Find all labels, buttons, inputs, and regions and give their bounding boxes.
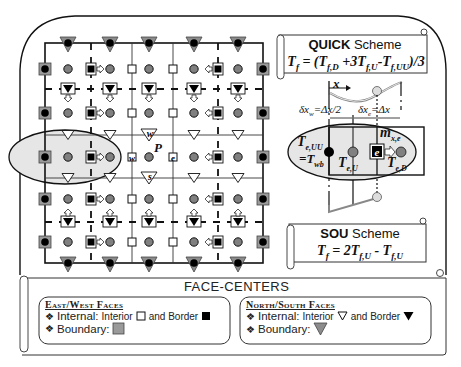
cell-center-circle [234, 238, 242, 246]
label-P: P [154, 140, 162, 156]
T-e-U-sub: e,U [347, 164, 358, 173]
flow-arrow-icon [64, 95, 72, 102]
formula-subscript: f,D [327, 62, 339, 72]
boundary-node [41, 65, 49, 73]
bullet-icon: ❖ [45, 311, 54, 322]
cell-center-circle [234, 195, 242, 203]
T-e-U-label: Te,U [338, 155, 358, 173]
boundary-node [259, 238, 267, 246]
T-wb-symbol: =T [299, 151, 314, 166]
ew-legend: East/West Faces ❖ Internal: Interior and… [45, 299, 211, 335]
formula-term: )/3 [409, 54, 425, 69]
ns-internal-line: ❖ Internal: Interior and Border [246, 310, 414, 322]
boundary-node [64, 259, 72, 267]
border-ew-face [215, 154, 222, 161]
boundary-node [64, 39, 72, 47]
sou-scroll-rod [287, 225, 294, 269]
interior-ew-face [169, 109, 177, 117]
flow-arrow-icon [97, 195, 104, 203]
dx-e-label: δxe=Δx [358, 103, 390, 118]
cell-center-circle [145, 238, 153, 246]
cell-center-circle [145, 153, 153, 161]
boundary-node [259, 109, 267, 117]
sou-title-rest: Scheme [348, 226, 399, 241]
sou-scheme-title: SOU Scheme [296, 226, 424, 241]
profile-curve-highlight [330, 82, 402, 101]
T-e-U-symbol: T [338, 155, 347, 170]
lower-marker [373, 193, 382, 202]
border-square-icon [201, 311, 211, 321]
interior-ew-face [169, 195, 177, 203]
quick-scheme-title: QUICK Scheme [286, 37, 424, 52]
m-x-e-label: mx,e [380, 125, 400, 143]
flow-arrow-icon [145, 95, 153, 102]
legend-title: FACE-CENTERS [184, 279, 289, 294]
border-ew-face [215, 110, 222, 117]
x-axis-arrow-icon [346, 85, 351, 91]
flow-arrow-icon [145, 209, 153, 216]
boundary-triangle-icon [313, 322, 328, 336]
legend-scroll-curl [437, 270, 444, 277]
cell-center-circle [145, 195, 153, 203]
ns-border-label: and Border [351, 311, 400, 322]
border-ew-face [88, 196, 95, 203]
dx-w-label: δxw=Δx/2 [299, 103, 341, 118]
boundary-node [106, 39, 114, 47]
boundary-square-icon [112, 322, 126, 335]
dx-w-symbol: δx [299, 103, 309, 115]
face-label-w: w [129, 153, 136, 163]
ew-internal-line: ❖ Internal: Interior and Border [45, 310, 211, 322]
boundary-node [41, 109, 49, 117]
bullet-icon: ❖ [246, 324, 255, 335]
cell-center-circle [145, 65, 153, 73]
ns-legend-heading: North/South Faces [246, 299, 414, 310]
quick-title-rest: Scheme [350, 37, 401, 52]
ew-boundary-line: ❖ Boundary: [45, 322, 211, 335]
interior-ew-face [169, 238, 177, 246]
profile-marker [373, 87, 382, 96]
bullet-icon: ❖ [45, 323, 54, 334]
ew-interior-label: Interior [102, 311, 133, 322]
T-e-D-symbol: T [387, 155, 396, 170]
face-e-label: e [375, 146, 380, 158]
cell-center-circle [190, 109, 198, 117]
quick-title-bold: QUICK [308, 37, 350, 52]
formula-term: T [317, 243, 326, 258]
ew-border-label: and Border [149, 311, 198, 322]
sou-title-bold: SOU [320, 226, 348, 241]
flow-arrow-icon [190, 209, 198, 216]
boundary-node [190, 39, 198, 47]
interior-triangle-icon [337, 311, 348, 321]
T-wb-sub: wb [314, 160, 323, 169]
boundary-node [145, 259, 153, 267]
quick-scroll-curl [421, 29, 427, 35]
flow-arrow-icon [234, 95, 242, 102]
boundary-node [41, 153, 49, 161]
cell-center-circle [190, 238, 198, 246]
flow-arrow-icon [205, 238, 212, 246]
ew-legend-heading: East/West Faces [45, 299, 211, 310]
border-ew-face [215, 196, 222, 203]
flow-arrow-icon [97, 109, 104, 117]
quick-formula: Tf = (Tf,D +3Tf,U-Tf,UU)/3 [283, 54, 429, 72]
boundary-node [234, 39, 242, 47]
cell-center-circle [106, 109, 114, 117]
interior-ew-face [128, 109, 136, 117]
interior-ew-face [128, 238, 136, 246]
boundary-node [190, 259, 198, 267]
cell-center-circle [106, 195, 114, 203]
cell-center-circle [64, 65, 72, 73]
boundary-node [259, 153, 267, 161]
ns-boundary-label: Boundary: [258, 323, 310, 335]
flow-arrow-icon [205, 65, 212, 73]
boundary-node [259, 65, 267, 73]
cell-center-circle [106, 238, 114, 246]
face-label-e: e [171, 153, 175, 163]
boundary-node [41, 238, 49, 246]
flow-arrow-icon [97, 238, 104, 246]
m-x-e-sub: x,e [391, 134, 401, 143]
dx-e-value: =Δx [371, 103, 390, 115]
border-ew-face [88, 239, 95, 246]
cell-center-circle [190, 153, 198, 161]
cell-center-circle [64, 238, 72, 246]
